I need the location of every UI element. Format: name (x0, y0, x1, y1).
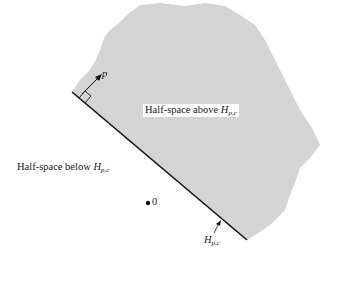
origin-point (146, 201, 150, 205)
diagram-canvas (0, 0, 343, 285)
label-pointer-arrow (214, 220, 221, 233)
hyperplane-label: Hp,c (204, 234, 220, 247)
origin-label: 0 (152, 196, 157, 207)
half-space-above-label: Half-space above Hp,c (143, 104, 239, 117)
half-space-below-label: Half-space below Hp,c (17, 161, 109, 174)
vector-p-label: p (102, 68, 107, 79)
half-space-above-region (72, 3, 320, 240)
